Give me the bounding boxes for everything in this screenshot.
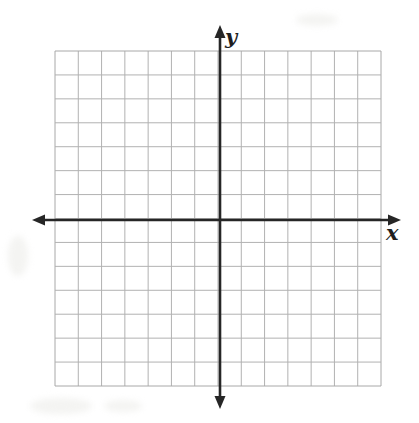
axes: [0, 0, 419, 423]
x-axis-label: x: [386, 222, 399, 243]
y-axis-label: y: [225, 26, 237, 47]
coordinate-plane-figure: y x: [0, 0, 419, 423]
